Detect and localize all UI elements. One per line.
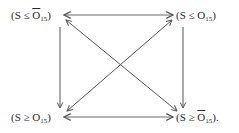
node-close: ) <box>212 9 216 21</box>
node-top-right: (S ≤ O15) <box>176 9 216 25</box>
implication-diagram: (S ≤ O15) (S ≤ O15) (S ≥ O15) (S ≥ O15). <box>0 0 239 133</box>
node-text: (S ≥ <box>176 111 197 123</box>
node-close: ). <box>212 111 218 123</box>
node-text: (S ≥ <box>11 111 32 123</box>
node-bottom-right: (S ≥ O15). <box>176 111 219 127</box>
node-close: ) <box>47 9 51 21</box>
node-text: (S ≤ <box>176 9 197 21</box>
node-close: ) <box>47 111 51 123</box>
node-text: (S ≤ <box>11 9 32 21</box>
node-bottom-left: (S ≥ O15) <box>11 111 51 127</box>
node-top-left: (S ≤ O15) <box>11 9 51 25</box>
